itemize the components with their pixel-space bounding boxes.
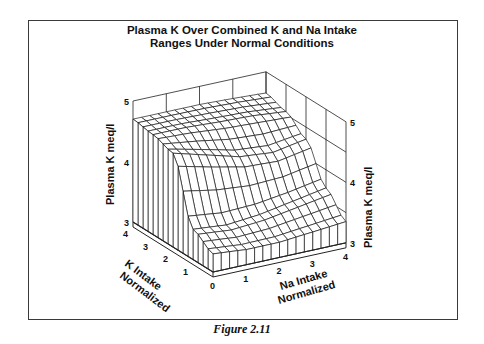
svg-text:3: 3 xyxy=(124,218,129,228)
surface-plot: 012341234345345 Plasma K meq/l Plasma K … xyxy=(0,0,484,344)
svg-text:4: 4 xyxy=(350,178,355,188)
figure-caption: Figure 2.11 xyxy=(0,322,484,337)
svg-text:4: 4 xyxy=(124,158,129,168)
svg-text:4: 4 xyxy=(343,252,348,262)
svg-text:4: 4 xyxy=(123,229,128,239)
svg-text:2: 2 xyxy=(277,266,282,276)
svg-text:5: 5 xyxy=(124,97,129,107)
svg-text:5: 5 xyxy=(350,118,355,128)
z-axis-label-right: Plasma K meq/l xyxy=(362,167,374,248)
svg-text:2: 2 xyxy=(163,254,168,264)
svg-text:1: 1 xyxy=(243,274,248,284)
svg-text:3: 3 xyxy=(143,242,148,252)
z-axis-label-left: Plasma K meq/l xyxy=(104,124,116,205)
svg-text:0: 0 xyxy=(210,281,215,291)
svg-text:1: 1 xyxy=(183,267,188,277)
svg-text:3: 3 xyxy=(310,259,315,269)
svg-text:3: 3 xyxy=(350,239,355,249)
surface-mesh xyxy=(133,93,346,277)
